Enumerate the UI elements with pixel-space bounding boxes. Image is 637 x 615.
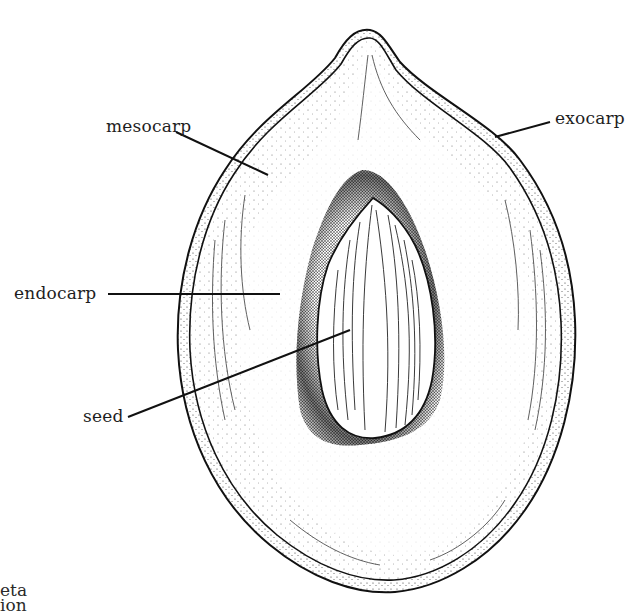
label-seed: seed xyxy=(83,408,124,425)
leader-line-exocarp xyxy=(495,122,550,137)
cropped-caption-line-2: ion xyxy=(0,597,27,614)
label-mesocarp: mesocarp xyxy=(106,118,191,135)
label-endocarp: endocarp xyxy=(14,285,96,302)
label-exocarp: exocarp xyxy=(555,110,625,127)
